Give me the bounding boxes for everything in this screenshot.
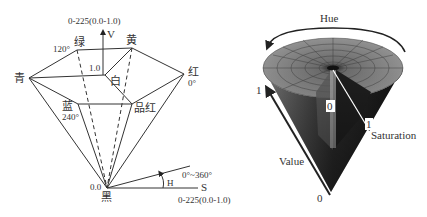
hsv-diagrams: 0-225(0.0-1.0) V 120° 绿 黄 青 1.0 白 红 0° 蓝… — [0, 0, 427, 217]
red-angle: 0° — [188, 78, 197, 88]
saturation-label: Saturation — [371, 129, 417, 141]
hexcone-diagram — [29, 32, 198, 188]
white-label: 白 — [110, 74, 121, 87]
green-angle: 120° — [53, 44, 71, 54]
yellow-label: 黄 — [126, 33, 137, 46]
magenta-label: 品红 — [134, 102, 156, 114]
hue-label: Hue — [320, 12, 338, 24]
s-range-label: 0-225(0.0-1.0) — [178, 195, 231, 205]
value-label: Value — [279, 155, 304, 167]
white-value: 1.0 — [89, 63, 101, 73]
cone-diagram: 0 1 Saturation Hue 1 Value 0 — [256, 12, 417, 204]
black-value: 0.0 — [90, 182, 102, 192]
hue-h-label: H — [167, 178, 174, 188]
green-label: 绿 — [74, 35, 85, 48]
red-label: 红 — [188, 66, 199, 78]
black-label: 黑 — [101, 191, 112, 203]
s-axis-label: S — [201, 181, 207, 193]
hexcone-labels: 0-225(0.0-1.0) V 120° 绿 黄 青 1.0 白 红 0° 蓝… — [14, 16, 231, 205]
cyan-label: 青 — [14, 72, 25, 84]
v-range-label: 0-225(0.0-1.0) — [68, 16, 121, 26]
value-max-label: 1 — [256, 84, 262, 96]
blue-angle: 240° — [62, 112, 80, 122]
blue-label: 蓝 — [62, 100, 73, 112]
value-min-label: 0 — [317, 192, 323, 204]
hue-arc-arrow — [160, 173, 164, 188]
saturation-min-label: 0 — [327, 100, 333, 112]
hue-range: 0°~360° — [182, 170, 212, 180]
v-axis-label: V — [107, 28, 115, 40]
